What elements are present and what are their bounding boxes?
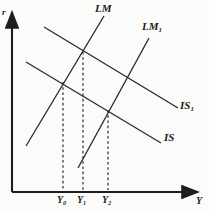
figure-canvas <box>0 0 209 211</box>
curve-lm1 <box>78 38 149 168</box>
curve-is1 <box>44 27 178 108</box>
scan-speck <box>30 175 32 177</box>
curve-label-is1: IS1 <box>180 100 194 111</box>
tick-label-y1: Y1 <box>77 195 86 205</box>
scan-speck <box>188 60 190 62</box>
curve-label-lm1: LM1 <box>142 21 162 32</box>
scan-speck <box>150 10 153 12</box>
curve-label-is: IS <box>164 132 174 143</box>
tick-label-y2: Y2 <box>102 195 111 205</box>
tick-label-y0: Y0 <box>57 195 66 205</box>
is-lm-figure: LM LM1 IS IS1 r Y Y0 Y1 Y2 <box>0 0 209 211</box>
x-axis-label: Y <box>196 196 202 206</box>
y-axis-label: r <box>2 8 6 17</box>
curve-is <box>26 62 161 143</box>
curve-label-lm: LM <box>95 3 112 14</box>
curve-lm <box>26 16 104 146</box>
